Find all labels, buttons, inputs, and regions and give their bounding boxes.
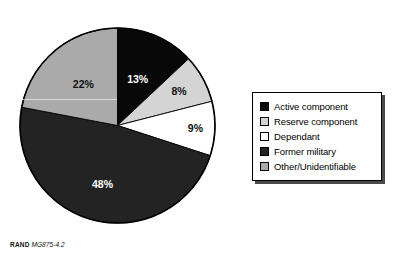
legend-swatch-former-military — [260, 147, 269, 156]
pie-chart-figure: 13%8%9%48%22% Active component Reserve c… — [0, 0, 402, 265]
legend-label: Active component — [274, 101, 348, 112]
legend-item[interactable]: Active component — [260, 99, 375, 114]
pie-slice-group — [20, 28, 215, 223]
legend-label: Dependant — [274, 131, 320, 142]
legend-swatch-dependant — [260, 132, 269, 141]
legend-swatch-other-unidentifiable — [260, 162, 269, 171]
caption-source-label: RAND — [10, 241, 30, 248]
caption-figure-number: MG875-4.2 — [31, 241, 64, 248]
legend-label: Former military — [274, 146, 336, 157]
legend-swatch-active-component — [260, 102, 269, 111]
legend-label: Other/Unidentifiable — [274, 161, 356, 172]
chart-legend: Active component Reserve component Depen… — [252, 92, 382, 181]
legend-item[interactable]: Dependant — [260, 129, 375, 144]
legend-item[interactable]: Former military — [260, 144, 375, 159]
pie-svg: 13%8%9%48%22% — [19, 22, 216, 229]
pie-chart-graphic: 13%8%9%48%22% — [19, 22, 216, 229]
legend-item[interactable]: Other/Unidentifiable — [260, 159, 375, 174]
legend-swatch-reserve-component — [260, 117, 269, 126]
legend-item[interactable]: Reserve component — [260, 114, 375, 129]
legend-label: Reserve component — [274, 116, 357, 127]
figure-caption: RAND MG875-4.2 — [10, 241, 65, 248]
